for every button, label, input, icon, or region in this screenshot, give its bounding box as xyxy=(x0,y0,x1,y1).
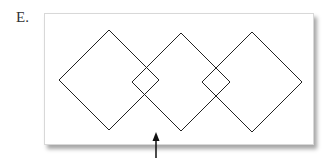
arrow-up-icon xyxy=(153,132,160,158)
diamond-diagram xyxy=(0,0,328,158)
diamond-middle xyxy=(132,33,230,131)
